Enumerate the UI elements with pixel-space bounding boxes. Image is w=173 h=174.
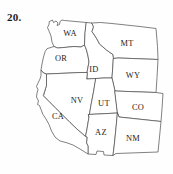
state-label-or: OR [55, 54, 67, 63]
state-label-nv: NV [71, 96, 84, 105]
state-label-ca: CA [52, 112, 64, 121]
state-label-wa: WA [63, 29, 77, 38]
state-label-co: CO [132, 103, 144, 112]
state-label-mt: MT [120, 39, 133, 48]
state-label-wy: WY [126, 71, 141, 80]
figure-container: 20. WAORIDMTWYNVUTCOAZNMCA [0, 0, 173, 174]
state-label-ut: UT [98, 99, 110, 108]
state-label-id: ID [89, 65, 98, 74]
state-label-az: AZ [95, 128, 107, 137]
western-us-outline-map: WAORIDMTWYNVUTCOAZNMCA [0, 0, 173, 174]
state-label-nm: NM [126, 134, 140, 143]
